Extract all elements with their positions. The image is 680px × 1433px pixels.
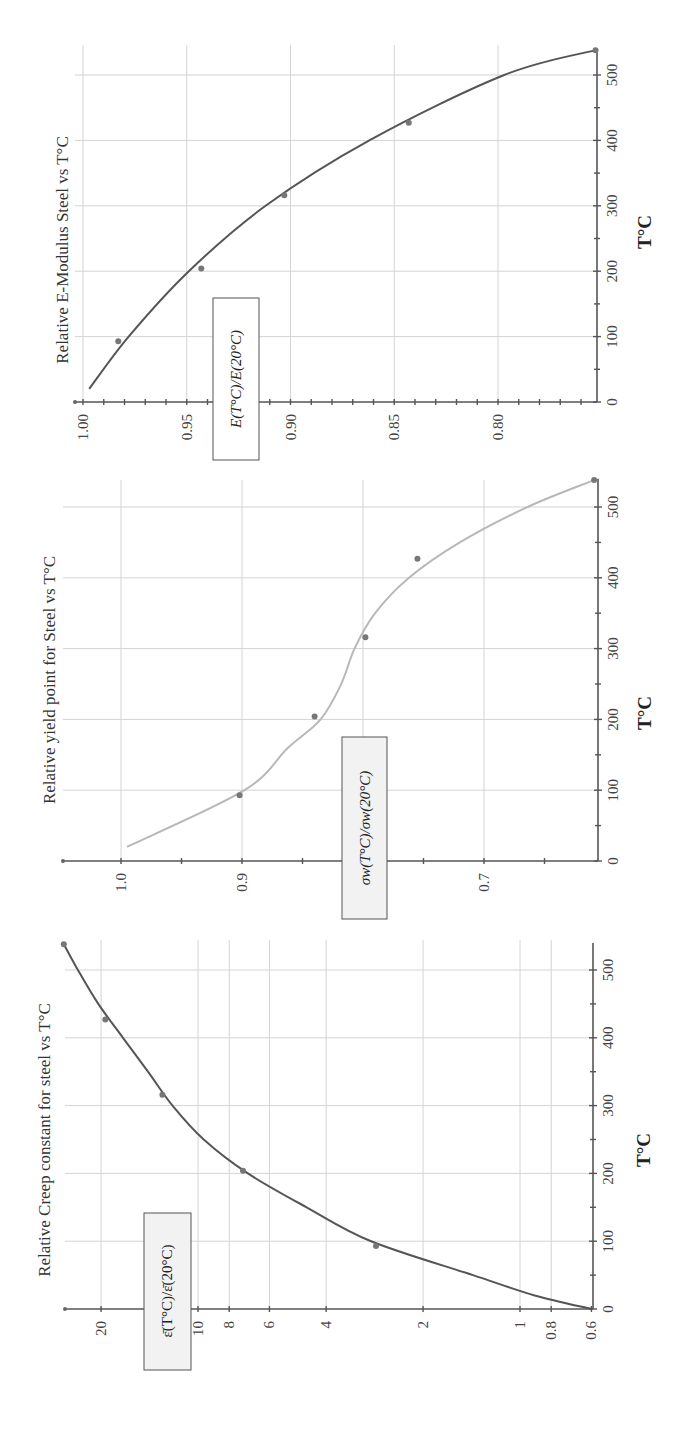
- data-point: [593, 47, 599, 53]
- temperature-tick-label: 200: [600, 1162, 616, 1185]
- fit-curve: [64, 944, 592, 1309]
- value-tick-label: 0.7: [476, 873, 492, 892]
- data-points: [115, 47, 598, 344]
- y-axis-label: ε̄(T°C)/ε̄(20°C): [159, 1245, 176, 1338]
- data-points: [61, 941, 379, 1249]
- yield-point-chart: 1.00.90.70100200300400500 Relative yield…: [40, 477, 655, 919]
- temperature-tick-label: 300: [600, 1094, 616, 1117]
- chart-title: Relative Creep constant for steel vs T°C: [35, 1003, 54, 1277]
- axes: 1.000.950.900.850.800100200300400500: [73, 49, 620, 440]
- x-axis-label: T°C: [634, 696, 655, 730]
- temperature-tick-label: 400: [600, 1027, 616, 1050]
- value-tick-label: 0.85: [386, 414, 402, 440]
- temperature-tick-label: 0: [605, 857, 621, 865]
- value-tick-label: 2: [415, 1321, 431, 1329]
- data-point: [240, 1168, 246, 1174]
- data-point: [414, 556, 420, 562]
- x-axis-label: T°C: [634, 215, 655, 249]
- temperature-tick-label: 400: [605, 567, 621, 590]
- e-modulus-chart: 1.000.950.900.850.800100200300400500 Rel…: [53, 45, 655, 460]
- data-point: [102, 1016, 108, 1022]
- chart-title: Relative yield point for Steel vs T°C: [40, 556, 59, 804]
- value-tick-label: 1: [512, 1321, 528, 1329]
- creep-constant-chart: 2010864210.80.60100200300400500 Relative…: [35, 940, 654, 1370]
- data-point: [281, 192, 287, 198]
- data-point: [198, 266, 204, 272]
- temperature-tick-label: 200: [604, 260, 620, 283]
- temperature-tick-label: 100: [604, 325, 620, 348]
- data-point: [362, 634, 368, 640]
- value-tick-label: 0.80: [490, 414, 506, 440]
- value-tick-label: 10: [190, 1321, 206, 1336]
- data-point: [406, 120, 412, 126]
- temperature-tick-label: 200: [605, 708, 621, 731]
- fit-curve: [89, 50, 595, 389]
- x-axis-label: T°C: [633, 1133, 654, 1167]
- temperature-tick-label: 300: [604, 195, 620, 218]
- value-tick-label: 6: [261, 1321, 277, 1329]
- value-tick-label: 0.6: [583, 1321, 599, 1340]
- gridlines: [75, 45, 597, 402]
- temperature-tick-label: 300: [605, 637, 621, 660]
- data-point: [591, 477, 597, 483]
- chart-stage: 1.000.950.900.850.800100200300400500 Rel…: [0, 0, 680, 1433]
- value-tick-label: 0.8: [543, 1321, 559, 1340]
- value-tick-label: 0.90: [283, 414, 299, 440]
- gridlines: [63, 480, 598, 861]
- y-axis-label-box: σw(T°C)/σw(20°C): [342, 737, 387, 919]
- data-point: [61, 941, 67, 947]
- y-axis-label-box: E(T°C)/E(20°C): [213, 298, 259, 460]
- value-tick-label: 8: [221, 1321, 237, 1329]
- data-point: [312, 714, 318, 720]
- chart-title: Relative E-Modulus Steel vs T°C: [53, 136, 72, 363]
- temperature-tick-label: 500: [605, 496, 621, 519]
- data-point: [159, 1092, 165, 1098]
- temperature-tick-label: 500: [604, 64, 620, 87]
- value-tick-label: 4: [318, 1321, 334, 1329]
- data-point: [237, 792, 243, 798]
- value-tick-label: 20: [93, 1321, 109, 1336]
- y-axis-label-box: ε̄(T°C)/ε̄(20°C): [144, 1213, 191, 1370]
- temperature-tick-label: 100: [600, 1230, 616, 1253]
- temperature-tick-label: 0: [604, 398, 620, 406]
- data-point: [115, 338, 121, 344]
- temperature-tick-label: 0: [600, 1305, 616, 1313]
- value-tick-label: 1.0: [113, 873, 129, 892]
- data-point: [373, 1243, 379, 1249]
- y-axis-label: E(T°C)/E(20°C): [228, 330, 245, 429]
- value-tick-label: 0.95: [179, 414, 195, 440]
- y-axis-label: σw(T°C)/σw(20°C): [357, 771, 374, 885]
- temperature-tick-label: 400: [604, 129, 620, 152]
- temperature-tick-label: 100: [605, 779, 621, 802]
- value-tick-label: 1.00: [75, 414, 91, 440]
- data-points: [237, 477, 598, 798]
- value-tick-label: 0.9: [234, 873, 250, 892]
- temperature-tick-label: 500: [600, 959, 616, 982]
